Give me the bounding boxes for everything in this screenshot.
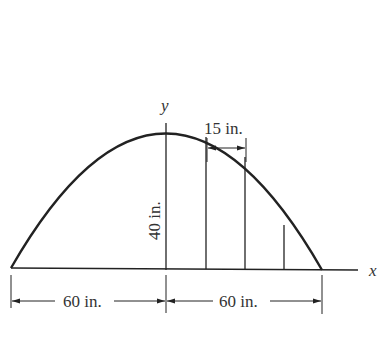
- arrow-head: [313, 299, 321, 304]
- arrow-head: [12, 299, 20, 304]
- arrow-head: [237, 146, 245, 151]
- x-axis-label: x: [368, 261, 377, 280]
- right-span-label: 60 in.: [219, 292, 258, 311]
- left-span-label: 60 in.: [63, 292, 102, 311]
- height-label: 40 in.: [145, 201, 164, 240]
- strip-width-label: 15 in.: [204, 119, 243, 138]
- y-axis-label: y: [159, 96, 169, 115]
- arrow-head: [167, 299, 175, 304]
- x-axis: [11, 268, 358, 270]
- parabolic-arch-diagram: 15 in. y x 40 in. 60 in. 60 in.: [0, 0, 388, 345]
- arrow-head: [157, 299, 165, 304]
